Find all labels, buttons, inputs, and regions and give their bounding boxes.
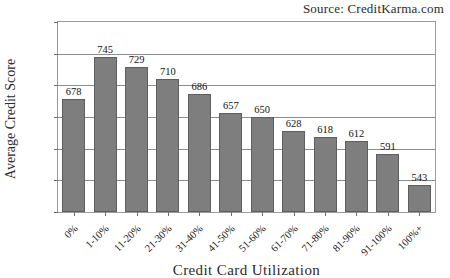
bar-value-label: 591 xyxy=(380,141,396,152)
bar-value-label: 657 xyxy=(223,100,239,111)
x-tick-mark xyxy=(356,212,357,216)
y-tick-mark xyxy=(54,85,58,86)
x-tick-mark xyxy=(419,212,420,216)
x-tick-mark xyxy=(74,212,75,216)
source-annotation: Source: CreditKarma.com xyxy=(303,1,444,17)
plot-area: 678745729710686657650628618612591543 500… xyxy=(57,21,436,213)
y-tick-mark xyxy=(54,54,58,55)
bar-value-label: 612 xyxy=(349,128,365,139)
y-tick-mark xyxy=(54,180,58,181)
y-axis-title: Average Credit Score xyxy=(2,3,20,235)
bar xyxy=(94,57,117,212)
x-tick-mark xyxy=(294,212,295,216)
bar xyxy=(376,154,399,212)
bar-value-label: 745 xyxy=(97,44,113,55)
bar xyxy=(314,137,337,212)
x-tick-mark xyxy=(325,212,326,216)
bar-value-label: 618 xyxy=(317,124,333,135)
x-tick-mark xyxy=(262,212,263,216)
bar xyxy=(219,113,242,212)
x-tick-mark xyxy=(137,212,138,216)
bar xyxy=(188,94,211,212)
y-tick-mark xyxy=(54,22,58,23)
bar xyxy=(251,117,274,212)
x-tick-mark xyxy=(388,212,389,216)
bar-value-label: 710 xyxy=(160,66,176,77)
y-tick-mark xyxy=(54,212,58,213)
bar-value-label: 729 xyxy=(129,54,145,65)
x-tick-mark xyxy=(231,212,232,216)
gridline xyxy=(58,54,435,55)
x-tick-mark xyxy=(105,212,106,216)
bar xyxy=(282,131,305,212)
y-tick-mark xyxy=(54,117,58,118)
chart-figure: Source: CreditKarma.com Average Credit S… xyxy=(0,0,450,278)
bar xyxy=(408,185,431,212)
x-axis-title: Credit Card Utilization xyxy=(57,262,436,278)
bar-value-label: 686 xyxy=(192,81,208,92)
bar xyxy=(156,79,179,212)
bar xyxy=(62,99,85,212)
y-tick-mark xyxy=(54,149,58,150)
x-tick-mark xyxy=(199,212,200,216)
bar xyxy=(125,67,148,212)
bar-value-label: 543 xyxy=(411,172,427,183)
bar-value-label: 678 xyxy=(66,86,82,97)
x-tick-mark xyxy=(168,212,169,216)
bar xyxy=(345,141,368,212)
bar-value-label: 650 xyxy=(254,104,270,115)
bar-value-label: 628 xyxy=(286,118,302,129)
